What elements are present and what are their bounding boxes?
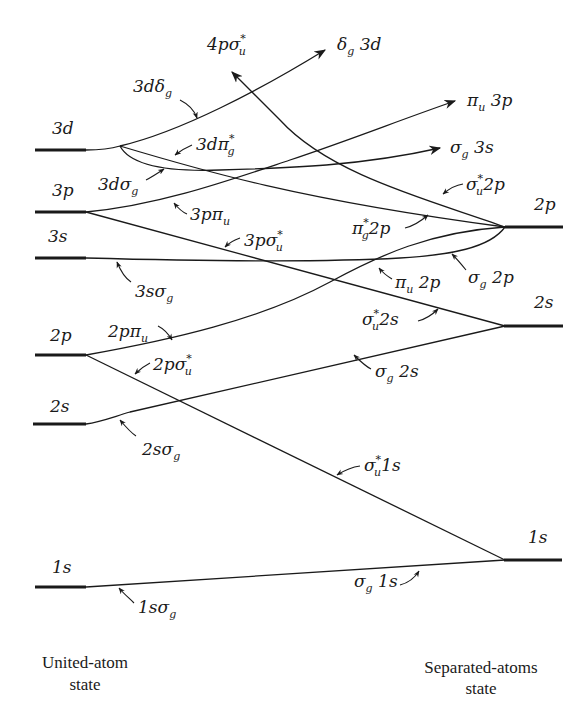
pointer-3psigma [225,238,240,247]
pointer-3dpi [175,145,192,155]
pointer-2psigma [135,363,150,374]
line-3dsigma [120,146,440,170]
captions: United-atom state Separated-atoms state [42,653,538,698]
separated-atoms-caption-line2: state [465,679,496,698]
label-pi-g-star-2p: π*g2p [351,216,391,242]
pointer-pi-u-2p [379,268,392,279]
line-3psigma [86,212,505,326]
pointer-3ssigma [117,262,131,282]
united-atom-mo-labels: 3dδg 3dπ*g 3dσg 3pπu 3pσ*u 3sσg 2pπu 2pσ… [98,32,283,621]
label-2ppi: 2pπu [107,321,148,345]
line-2ssigma [86,326,505,424]
label-pi-u-2p: πu 2p [394,272,441,296]
label-delta-g-3d: δg 3d [337,34,382,58]
pointer-3ddelta [180,100,197,118]
correlation-diagram: 3d 3p 3s 2p 2s 1s 2p 2s 1s 3dδg 3dπ*g 3d… [0,0,586,721]
left-level-label: 3p [52,180,74,200]
line-3dpi [120,146,505,227]
label-3ddelta: 3dδg [133,76,172,100]
label-3psigma: 3pσ*u [244,228,283,254]
label-sigma-g-2s: σg 2s [375,361,419,385]
label-sigma-g-2p: σg 2p [468,267,514,291]
pointer-2ssigma [120,420,136,436]
label-3dpi: 3dπ*g [196,132,235,158]
line-1ssigma [86,560,505,587]
label-sigma-g-1s: σg 1s [354,571,398,595]
right-level-label: 1s [528,527,548,547]
label-3dsigma: 3dσg [98,174,138,198]
pointer-sigma-u-star-2p [443,184,463,194]
pointer-pi-g-star-2p [405,215,428,228]
united-atom-caption-line2: state [69,675,100,694]
pointer-sigma-g-2p [452,254,466,270]
label-sigma-u-star-2p: σ*u2p [466,172,505,198]
left-level-label: 3s [48,226,68,246]
label-pi-u-3p: πu 3p [466,90,513,114]
left-level-label: 1s [52,557,72,577]
left-level-label: 3d [52,118,74,138]
separated-atoms-caption: Separated-atoms [424,658,537,677]
right-level-label: 2p [533,194,556,214]
united-atom-caption: United-atom [42,653,128,672]
label-sigma-u-star-1s: σ*u1s [364,453,401,479]
line-3ssigma [86,227,505,261]
label-sigma-g-3s: σg 3s [450,137,494,161]
label-1ssigma: 1sσg [138,597,176,621]
pointer-1ssigma [119,588,134,603]
correlation-lines [86,50,505,587]
pointer-sigma-u-star-1s [337,466,360,475]
united-atom-levels [33,150,86,587]
label-sigma-u-star-2s: σ*u2s [362,307,399,333]
left-level-label: 2p [49,325,72,345]
label-2ssigma: 2sσg [141,439,180,463]
label-3ppi: 3pπu [190,204,230,228]
pointer-sigma-u-star-2s [418,309,438,321]
left-level-label: 2s [49,396,70,416]
pointer-sigma-g-1s [400,571,419,585]
label-3ssigma: 3sσg [135,281,173,305]
pointer-3dsigma [146,169,164,180]
right-level-label: 2s [533,292,554,312]
label-2psigma: 2pσ*u [152,352,192,378]
label-4psigma: 4pσ*u [206,32,246,58]
pointer-3ppi [174,203,187,214]
separated-atom-mo-labels: δg 3d πu 3p σg 3s σ*u2p π*g2p σg 2p πu 2… [337,34,514,595]
